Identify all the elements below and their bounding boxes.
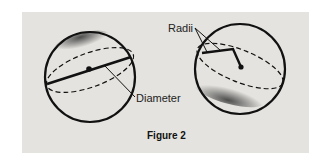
figure-caption: Figure 2 [147,130,186,141]
right-sphere [190,24,288,114]
left-sphere [41,26,139,122]
radii-label: Radii [168,22,193,34]
diameter-label: Diameter [136,92,181,104]
